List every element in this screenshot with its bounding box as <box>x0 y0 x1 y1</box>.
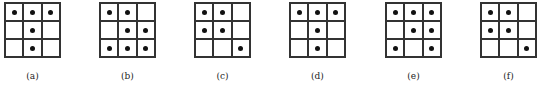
grid-cell <box>5 3 23 21</box>
grid-cell <box>118 39 136 57</box>
dot-icon <box>393 10 398 15</box>
grid-cell <box>481 39 499 57</box>
panel-a: (a) <box>4 0 84 88</box>
grid-cell <box>290 21 308 39</box>
grid-cell <box>42 39 60 57</box>
grid-cell <box>327 39 345 57</box>
panel-c: (c) <box>194 0 274 88</box>
dot-icon <box>143 28 148 33</box>
dot-icon <box>143 46 148 51</box>
dot-grid <box>385 2 442 58</box>
grid-cell <box>195 39 213 57</box>
dot-grid <box>4 2 61 58</box>
grid-cell <box>213 3 231 21</box>
dot-icon <box>333 10 338 15</box>
grid-cell <box>23 3 41 21</box>
grid-cell <box>386 39 404 57</box>
dot-icon <box>429 28 434 33</box>
dot-icon <box>125 28 130 33</box>
dot-grid <box>289 2 346 58</box>
grid-cell <box>195 21 213 39</box>
grid-cell <box>23 39 41 57</box>
grid-cell <box>23 21 41 39</box>
dot-icon <box>315 46 320 51</box>
dot-grid <box>194 2 251 58</box>
grid-cell <box>404 39 422 57</box>
grid-cell <box>100 21 118 39</box>
grid-cell <box>42 3 60 21</box>
grid-cell <box>423 21 441 39</box>
dot-icon <box>315 28 320 33</box>
grid-cell <box>404 3 422 21</box>
dot-icon <box>30 10 35 15</box>
panel-d: (d) <box>289 0 369 88</box>
grid-cell <box>118 21 136 39</box>
grid-cell <box>386 3 404 21</box>
dot-icon <box>393 46 398 51</box>
dot-icon <box>429 10 434 15</box>
grid-cell <box>100 39 118 57</box>
panel-label: (b) <box>99 71 156 81</box>
grid-cell <box>518 3 536 21</box>
dot-grid <box>480 2 537 58</box>
grid-cell <box>290 39 308 57</box>
dot-icon <box>488 28 493 33</box>
dot-icon <box>125 10 130 15</box>
dot-icon <box>411 28 416 33</box>
dot-icon <box>238 46 243 51</box>
panel-label: (a) <box>4 71 61 81</box>
dot-icon <box>202 28 207 33</box>
dot-icon <box>524 46 529 51</box>
grid-cell <box>481 21 499 39</box>
grid-cell <box>423 3 441 21</box>
grid-cell <box>137 39 155 57</box>
grid-cell <box>137 21 155 39</box>
grid-cell <box>327 21 345 39</box>
grid-cell <box>232 39 250 57</box>
grid-cell <box>481 3 499 21</box>
dot-icon <box>506 10 511 15</box>
grid-cell <box>232 3 250 21</box>
dot-icon <box>30 46 35 51</box>
grid-cell <box>195 3 213 21</box>
dot-icon <box>30 28 35 33</box>
panel-label: (c) <box>194 71 251 81</box>
dot-icon <box>411 10 416 15</box>
grid-cell <box>327 3 345 21</box>
dot-icon <box>107 46 112 51</box>
dot-icon <box>506 28 511 33</box>
dot-icon <box>488 10 493 15</box>
grid-cell <box>499 21 517 39</box>
grid-cell <box>386 21 404 39</box>
grid-cell <box>404 21 422 39</box>
grid-cell <box>308 21 326 39</box>
grid-cell <box>100 3 118 21</box>
grid-cell <box>213 21 231 39</box>
grid-cell <box>5 39 23 57</box>
panel-b: (b) <box>99 0 179 88</box>
grid-cell <box>213 39 231 57</box>
panel-f: (f) <box>480 0 541 88</box>
panel-label: (d) <box>289 71 346 81</box>
dot-icon <box>48 10 53 15</box>
grid-cell <box>308 39 326 57</box>
grid-cell <box>499 39 517 57</box>
dot-icon <box>220 10 225 15</box>
panel-label: (f) <box>480 71 537 81</box>
grid-cell <box>518 39 536 57</box>
grid-cell <box>518 21 536 39</box>
dot-icon <box>315 10 320 15</box>
dot-grid <box>99 2 156 58</box>
dot-icon <box>429 46 434 51</box>
panel-e: (e) <box>385 0 465 88</box>
dot-icon <box>220 28 225 33</box>
grid-cell <box>232 21 250 39</box>
grid-cell <box>308 3 326 21</box>
dot-icon <box>202 10 207 15</box>
grid-cell <box>118 3 136 21</box>
dot-icon <box>125 46 130 51</box>
dot-icon <box>12 10 17 15</box>
dot-icon <box>107 10 112 15</box>
grid-cell <box>290 3 308 21</box>
panel-label: (e) <box>385 71 442 81</box>
